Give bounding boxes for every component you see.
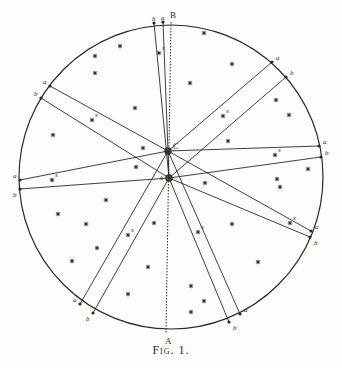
star-22 <box>70 259 74 263</box>
point-a-bottom-right <box>238 312 241 315</box>
ray-upper-right-b <box>169 77 286 178</box>
star-29 <box>189 310 193 314</box>
label-a-right: a <box>323 138 327 146</box>
point-b-left <box>18 187 21 190</box>
ray-upper-left-b <box>41 98 169 178</box>
ray-right-a <box>168 146 319 151</box>
star-12 <box>306 167 310 171</box>
label-b-bottom-left: b <box>86 315 90 323</box>
point-a-bottom-left <box>78 302 81 305</box>
star-s-left <box>50 178 54 182</box>
label-a-top: a <box>161 14 165 22</box>
point-a-left <box>18 178 21 181</box>
star-6 <box>133 106 137 110</box>
label-b-bottom-right: b <box>233 324 237 332</box>
point-b-lower-right <box>308 235 311 238</box>
star-24 <box>126 292 130 296</box>
star-9 <box>226 139 230 143</box>
label-a-bottom-right: a <box>244 306 248 314</box>
ray-bottom-left-b <box>93 178 169 313</box>
point-b-right <box>319 155 322 158</box>
star-s-upper-right <box>221 114 225 118</box>
label-center-b: b <box>160 174 164 182</box>
center-lower-star <box>167 176 171 180</box>
label-b-upper-right: b <box>290 69 294 77</box>
ray-upper-right-a <box>168 62 272 151</box>
star-20 <box>152 221 156 225</box>
ray-left-a <box>20 151 168 180</box>
star-27 <box>189 284 193 288</box>
label-b-left: b <box>13 191 17 199</box>
ray-lower-right-a <box>168 151 311 231</box>
label-b-upper-left: b <box>34 90 38 98</box>
label-B: B <box>170 10 176 20</box>
point-a-upper-right <box>270 60 273 63</box>
label-a-upper-left: a <box>43 78 47 86</box>
star-4 <box>93 54 97 58</box>
star-19 <box>84 222 88 226</box>
star-10 <box>274 98 278 102</box>
point-b-bottom-left <box>91 311 94 314</box>
label-s-bottom-right: s <box>201 223 204 231</box>
star-14 <box>278 185 282 189</box>
star-25 <box>230 222 234 226</box>
point-a-upper-left <box>48 84 51 87</box>
label-a-lower-right: a <box>315 223 319 231</box>
ray-right-b <box>169 157 321 178</box>
star-1 <box>230 62 234 66</box>
star-markers <box>18 20 322 323</box>
star-13 <box>275 177 279 181</box>
ray-upper-left-a <box>50 86 168 151</box>
star-15 <box>203 181 207 185</box>
label-b-lower-right: b <box>314 239 318 247</box>
label-s-left: s <box>55 171 58 179</box>
label-b-right: b <box>325 149 329 157</box>
label-a-left: a <box>13 172 17 180</box>
point-b-upper-right <box>284 75 287 78</box>
label-center-c: C <box>173 142 178 151</box>
star-23 <box>146 265 150 269</box>
center-c-star <box>166 149 170 153</box>
point-a-right <box>317 144 320 147</box>
point-b-bottom-right <box>227 320 230 323</box>
star-26 <box>256 260 260 264</box>
star-3 <box>118 44 122 48</box>
star-17 <box>104 198 108 202</box>
star-16 <box>134 165 138 169</box>
label-s-lower-right: s <box>293 214 296 222</box>
point-a-lower-right <box>309 229 312 232</box>
star-s-upper-left <box>90 118 94 122</box>
label-s-top: s <box>162 44 165 52</box>
label-s-upper-left: s <box>95 111 98 119</box>
ray-bottom-left-a <box>80 151 168 304</box>
ray-bottom-right-a <box>168 151 240 314</box>
label-s-upper-right: s <box>226 107 229 115</box>
label-a-bottom-left: a <box>73 296 77 304</box>
star-8 <box>141 146 145 150</box>
celestial-diagram: absabsabsabsabsabsabsabsCbBA <box>0 0 342 368</box>
label-b-top: b <box>152 15 156 23</box>
star-2 <box>188 81 192 85</box>
star-s-bottom-right <box>196 230 200 234</box>
star-18 <box>56 212 60 216</box>
star-0 <box>202 31 206 35</box>
point-b-upper-left <box>39 96 42 99</box>
star-5 <box>93 71 97 75</box>
star-s-top <box>157 51 161 55</box>
label-s-bottom-left: s <box>131 226 134 234</box>
star-11 <box>287 113 291 117</box>
star-s-bottom-left <box>126 233 130 237</box>
figure-caption: Fig. 1. <box>0 343 342 358</box>
ray-top-a <box>163 22 168 151</box>
label-s-right: s <box>278 146 281 154</box>
star-21 <box>95 246 99 250</box>
star-7 <box>51 133 55 137</box>
star-s-lower-right <box>288 221 292 225</box>
star-s-right <box>273 153 277 157</box>
star-28 <box>202 299 206 303</box>
label-a-upper-right: a <box>276 54 280 62</box>
